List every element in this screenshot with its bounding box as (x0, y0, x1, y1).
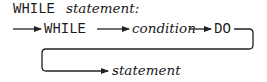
title-label: statement: (66, 0, 139, 16)
title-keyword: WHILE (13, 1, 55, 17)
syntax-diagram: WHILE statement: WHILE condition DO stat… (0, 0, 267, 82)
node-do: DO (214, 21, 231, 37)
node-while: WHILE (44, 21, 86, 37)
node-statement: statement (112, 62, 181, 78)
node-condition: condition (132, 20, 196, 36)
